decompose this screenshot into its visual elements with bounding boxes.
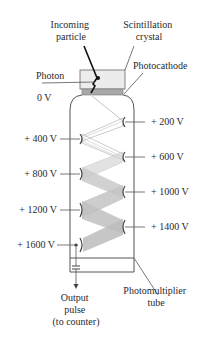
electron-beams (82, 96, 123, 252)
label-dynode-200: + 200 V (151, 116, 184, 127)
label-dynode-600: + 600 V (151, 151, 184, 162)
label-incoming-particle: Incoming particle (51, 19, 92, 42)
label-output-pulse: Output pulse (to counter) (53, 292, 100, 328)
photocathode (82, 89, 123, 95)
label-anode-1600: + 1600 V (17, 239, 55, 250)
label-cathode-voltage: 0 V (37, 92, 52, 103)
label-dynode-400: + 400 V (24, 133, 57, 144)
scintillation-point (96, 76, 100, 80)
photomultiplier-diagram: Incoming particle Scintillation crystal … (0, 0, 207, 344)
output-arrow-icon (74, 284, 79, 289)
anode (80, 238, 82, 252)
label-dynode-800: + 800 V (24, 168, 57, 179)
label-dynode-1000: + 1000 V (151, 186, 189, 197)
scintillation-crystal (80, 70, 125, 89)
label-dynode-1400: + 1400 V (151, 221, 189, 232)
label-photomultiplier-tube: Photomultiplier tube (123, 285, 188, 308)
label-photocathode: Photocathode (133, 60, 188, 71)
label-photon: Photon (36, 70, 64, 81)
label-dynode-1200: + 1200 V (19, 204, 57, 215)
label-scintillation-crystal: Scintillation crystal (123, 19, 174, 42)
photocathode-leader (124, 73, 143, 94)
